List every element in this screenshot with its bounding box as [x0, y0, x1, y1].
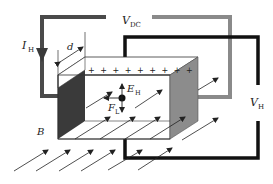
- svg-text:B: B: [36, 126, 44, 137]
- svg-text:DC: DC: [130, 21, 141, 29]
- hall-effect-diagram: + + + + + + + + + V DC I H d E H: [0, 0, 273, 184]
- svg-text:d: d: [67, 41, 73, 52]
- label-v-dc: V DC: [122, 14, 141, 29]
- svg-text:H: H: [28, 46, 34, 54]
- svg-text:E: E: [126, 83, 135, 94]
- label-e-h: E H: [126, 83, 141, 97]
- svg-text:I: I: [21, 39, 27, 52]
- label-i-h: I H: [21, 39, 34, 54]
- positive-charges: + + + + + + + + +: [88, 66, 194, 75]
- svg-text:H: H: [135, 89, 141, 97]
- svg-text:H: H: [258, 103, 264, 111]
- current-arrow-icon: [36, 48, 48, 62]
- label-b: B: [36, 126, 44, 137]
- svg-text:L: L: [115, 108, 120, 116]
- label-v-h: V H: [250, 96, 264, 111]
- label-f-l: F L: [107, 102, 120, 116]
- label-d: d: [67, 41, 73, 52]
